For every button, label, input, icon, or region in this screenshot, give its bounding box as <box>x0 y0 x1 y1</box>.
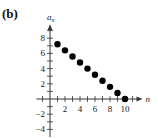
x-axis-label: n <box>146 94 151 104</box>
x-tick-label: 6 <box>93 104 98 114</box>
y-tick-label: −4 <box>35 124 45 134</box>
data-point <box>114 90 120 96</box>
data-point <box>122 96 128 102</box>
data-point <box>62 47 68 53</box>
y-axis-label: an <box>47 12 55 23</box>
data-point <box>84 65 90 71</box>
scatter-plot: nan246810−4−22468 <box>0 0 158 139</box>
data-point <box>69 53 75 59</box>
data-point <box>107 84 113 90</box>
y-tick-label: 8 <box>41 33 46 43</box>
data-point <box>54 41 60 47</box>
y-tick-label: 6 <box>41 48 46 58</box>
y-tick-label: 2 <box>41 79 46 89</box>
y-tick-label: 4 <box>41 64 46 74</box>
x-tick-label: 10 <box>121 104 131 114</box>
x-tick-label: 8 <box>108 104 113 114</box>
x-axis-arrow-icon <box>137 97 143 102</box>
y-tick-label: −2 <box>35 109 45 119</box>
x-tick-label: 4 <box>78 104 83 114</box>
data-point <box>77 59 83 65</box>
data-point <box>99 78 105 84</box>
data-point <box>92 71 98 77</box>
y-axis-arrow-icon <box>48 24 53 30</box>
x-tick-label: 2 <box>63 104 68 114</box>
